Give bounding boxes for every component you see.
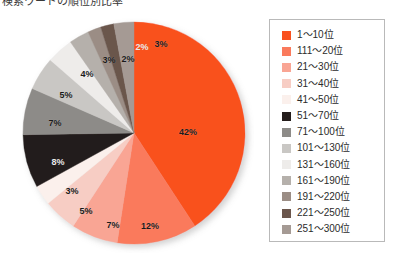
pie-svg (22, 17, 254, 253)
legend-swatch-icon (282, 95, 291, 104)
legend-item: 21～30位 (282, 59, 380, 75)
legend-swatch-icon (282, 176, 291, 185)
legend-item-label: 1～10位 (297, 30, 334, 40)
legend-item-label: 41～50位 (297, 95, 339, 105)
legend-item: 71～100位 (282, 124, 380, 140)
legend-swatch-icon (282, 225, 291, 234)
legend-item: 41～50位 (282, 92, 380, 108)
legend-swatch-icon (282, 112, 291, 121)
chart-legend: 1～10位111～20位21～30位31～40位41～50位51～70位71～1… (269, 19, 385, 242)
legend-item: 221～250位 (282, 205, 380, 221)
legend-swatch-icon (282, 31, 291, 40)
legend-item-label: 31～40位 (297, 79, 339, 89)
legend-swatch-icon (282, 144, 291, 153)
legend-item: 101～130位 (282, 140, 380, 156)
legend-item-label: 101～130位 (297, 143, 350, 153)
legend-item: 191～220位 (282, 189, 380, 205)
legend-item: 31～40位 (282, 76, 380, 92)
legend-item-label: 131～160位 (297, 160, 350, 170)
legend-item-label: 251～300位 (297, 224, 350, 234)
legend-item: 111～20位 (282, 43, 380, 59)
legend-swatch-icon (282, 63, 291, 72)
legend-swatch-icon (282, 128, 291, 137)
legend-swatch-icon (282, 192, 291, 201)
legend-swatch-icon (282, 209, 291, 218)
legend-item: 251～300位 (282, 221, 380, 237)
legend-item: 131～160位 (282, 157, 380, 173)
legend-item-label: 161～190位 (297, 176, 350, 186)
legend-swatch-icon (282, 47, 291, 56)
caption-text: 検索ワードの順位別比率 (2, 0, 123, 8)
legend-item-label: 71～100位 (297, 127, 345, 137)
legend-item-label: 221～250位 (297, 208, 350, 218)
pie-plot-area: 42%12%7%5%3%8%7%5%4%3%2%2%3% (22, 17, 254, 253)
pie-chart-figure: 検索ワードの順位別比率 42%12%7%5%3%8%7%5%4%3%2%2%3%… (0, 0, 394, 259)
pie-slices-group (23, 22, 245, 244)
legend-item: 161～190位 (282, 173, 380, 189)
legend-item-label: 51～70位 (297, 111, 339, 121)
legend-item: 1～10位 (282, 27, 380, 43)
legend-swatch-icon (282, 79, 291, 88)
caption-strip: 検索ワードの順位別比率 (0, 0, 200, 9)
legend-item: 51～70位 (282, 108, 380, 124)
legend-item-label: 111～20位 (297, 46, 343, 56)
legend-item-label: 191～220位 (297, 192, 350, 202)
legend-swatch-icon (282, 160, 291, 169)
legend-item-label: 21～30位 (297, 62, 339, 72)
